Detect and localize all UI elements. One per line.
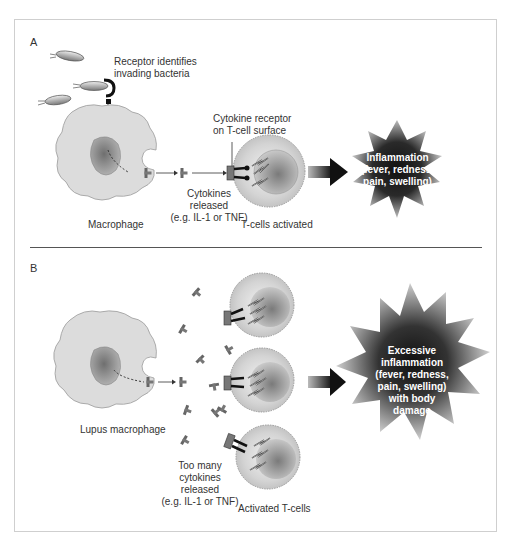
cytokine-receptor-label: Cytokine receptor on T-cell surface (213, 113, 291, 137)
excessive-inflammation-label: Excessive inflammation (fever, redness, … (362, 345, 462, 417)
lupus-macrophage-label: Lupus macrophage (80, 424, 166, 436)
activated-tcells-label: Activated T-cells (238, 503, 311, 515)
panel-label-a: A (30, 36, 37, 48)
receptor-label: Receptor identifies invading bacteria (114, 56, 197, 80)
panel-divider (30, 247, 482, 248)
macrophage-label: Macrophage (88, 219, 144, 231)
bacteria-group (38, 49, 108, 106)
tcells-activated-label: T-cells activated (241, 219, 313, 231)
diagram-art (0, 0, 515, 550)
panel-label-b: B (30, 262, 37, 274)
inflammation-label: Inflammation (fever, redness, pain, swel… (350, 152, 445, 188)
too-many-cytokines-label: Too many cytokines released (e.g. IL-1 o… (155, 460, 245, 508)
